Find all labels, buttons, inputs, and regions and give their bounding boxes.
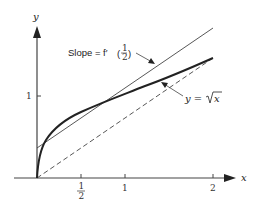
slope-frac-den: 2 [122,52,128,62]
x-axis-label: x [241,172,247,183]
y-axis-label: y [32,11,39,22]
slope-label: Slope = f′ [68,47,108,58]
curve-pointer-arrow-icon [161,82,168,88]
x-axis-arrow-icon [224,174,236,182]
y-tick-1-label: 1 [26,91,32,101]
secant-line [37,58,213,178]
x-tick-2-label: 2 [210,183,216,193]
tangent-line-diagram: y x 1 2 1 2 1 Slope = f′ ( 1 2 ) y = x [0,0,260,208]
y-axis-arrow-icon [33,26,41,38]
slope-paren-open: ( [117,48,121,59]
slope-pointer-arrow-icon [148,58,155,64]
curve-label-radicand: x [214,93,220,104]
curve-label: y = [184,93,202,104]
x-tick-half-num: 1 [79,181,85,191]
x-tick-1-label: 1 [122,183,128,193]
x-tick-half-den: 2 [79,191,85,201]
slope-paren-close: ) [128,48,131,59]
